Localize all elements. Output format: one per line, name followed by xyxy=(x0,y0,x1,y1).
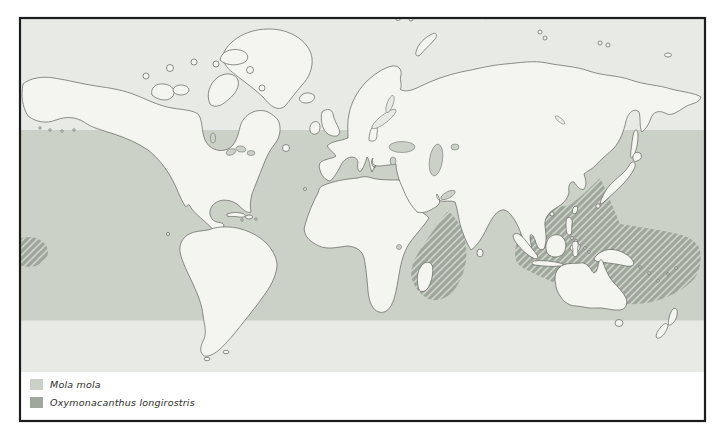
island-tierra-del-fuego xyxy=(204,357,210,360)
island-melanesia xyxy=(657,280,660,283)
island-new-siberian xyxy=(606,43,610,47)
island-new-siberian xyxy=(598,41,602,45)
aleutian-islet xyxy=(73,129,75,131)
island-tasmania xyxy=(615,320,623,327)
oxy-range-east-pacific-patch xyxy=(10,237,48,267)
black-sea xyxy=(389,142,415,153)
map-legend: Mola mola Oxymonacanthus longirostris xyxy=(30,379,195,408)
island-luzon xyxy=(566,217,572,235)
aegean-sea xyxy=(390,157,396,165)
island-moluccas xyxy=(584,247,587,250)
lake-winnipeg xyxy=(211,133,216,143)
island-canary xyxy=(304,188,307,191)
island-sulawesi xyxy=(572,241,578,256)
island-borneo xyxy=(546,235,566,257)
lake-victoria xyxy=(397,245,402,250)
aleutian-islet xyxy=(39,127,41,129)
aleutian-islet xyxy=(49,129,51,131)
island-wrangel xyxy=(665,53,672,57)
island-ireland xyxy=(310,122,320,135)
arctic-islet xyxy=(259,85,265,91)
arctic-islet xyxy=(167,65,174,72)
island-hispaniola xyxy=(246,215,253,219)
mola-mola-swatch xyxy=(30,379,43,390)
legend-item-mola-mola: Mola mola xyxy=(30,379,195,390)
world-map-svg xyxy=(0,0,726,443)
island-severnaya-zemlya xyxy=(543,36,547,40)
oxymonacanthus-swatch xyxy=(30,397,43,408)
great-lake xyxy=(247,151,255,156)
arctic-islet xyxy=(247,67,254,74)
island-fiji xyxy=(667,273,670,276)
arctic-islet xyxy=(143,73,149,79)
island-sri-lanka xyxy=(477,249,483,257)
island-japan-kyushu xyxy=(596,204,600,208)
arctic-islet xyxy=(191,59,197,65)
island-franz-josef xyxy=(478,12,482,16)
island-victoria xyxy=(152,84,174,100)
island-melanesia xyxy=(648,272,651,275)
island-cuba xyxy=(227,213,245,218)
mola-mola-label: Mola mola xyxy=(50,379,101,390)
island-moluccas xyxy=(588,251,591,254)
island-banks xyxy=(173,85,189,95)
island-puerto-rico xyxy=(255,218,257,220)
oxymonacanthus-label: Oxymonacanthus longirostris xyxy=(50,397,195,408)
island-jamaica xyxy=(241,219,243,221)
ocean-layers xyxy=(10,12,704,420)
island-galapagos xyxy=(167,233,170,236)
island-severnaya-zemlya xyxy=(538,30,542,34)
island-hainan xyxy=(550,212,554,216)
island-fiji xyxy=(675,267,678,270)
island-newfoundland xyxy=(283,145,290,152)
island-falkland xyxy=(223,350,229,353)
species-distribution-figure: Mola mola Oxymonacanthus longirostris xyxy=(0,0,726,443)
legend-item-oxymonacanthus: Oxymonacanthus longirostris xyxy=(30,397,195,408)
island-svalbard xyxy=(403,13,407,17)
arctic-islet xyxy=(213,61,219,67)
aral-sea xyxy=(451,144,459,150)
island-visayas xyxy=(571,237,574,240)
island-melanesia xyxy=(639,266,642,269)
aleutian-islet xyxy=(61,130,63,132)
